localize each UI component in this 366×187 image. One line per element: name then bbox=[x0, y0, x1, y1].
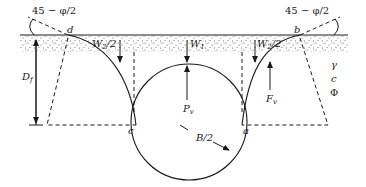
point-a-label: a bbox=[243, 125, 249, 136]
angle-arc-right bbox=[334, 19, 338, 35]
point-b-label: b bbox=[294, 24, 300, 35]
uplift-diagram: 45 − φ/2 45 − φ/2 d b c a W2/2 W1 W2/2 D… bbox=[0, 0, 366, 187]
radius-arrow bbox=[213, 142, 229, 150]
soil-layer bbox=[20, 36, 348, 52]
angle-label-right: 45 − φ/2 bbox=[285, 5, 329, 16]
circular-anchor bbox=[131, 64, 247, 180]
depth-label: Df bbox=[21, 71, 34, 84]
angle-label-left: 45 − φ/2 bbox=[32, 5, 76, 16]
failure-angle-line-left bbox=[28, 17, 68, 35]
soil-friction-angle-label: Φ bbox=[330, 87, 338, 98]
point-c-label: c bbox=[128, 125, 134, 136]
point-d-label: d bbox=[67, 24, 73, 35]
uplift-label: Pv bbox=[182, 103, 194, 116]
shear-force-label: Fv bbox=[265, 93, 277, 106]
soil-unit-weight-label: γ bbox=[331, 59, 337, 70]
radius-dash bbox=[180, 125, 188, 130]
soil-cohesion-label: c bbox=[331, 73, 337, 84]
radius-label: B/2 bbox=[195, 132, 213, 143]
angle-arc-left bbox=[30, 19, 34, 35]
failure-angle-line-right bbox=[300, 17, 340, 35]
